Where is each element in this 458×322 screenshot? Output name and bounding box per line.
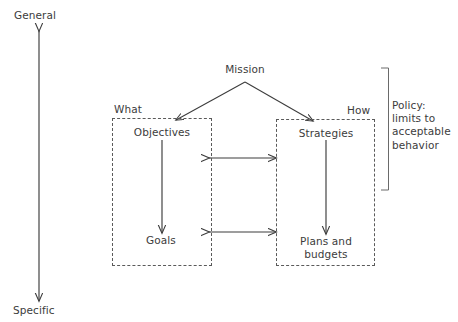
strategies-node-label: Strategies: [299, 127, 354, 140]
policy-bracket: [381, 68, 389, 190]
diagram-canvas: General Specific Mission What How Object…: [0, 0, 458, 322]
mission-label: Mission: [225, 63, 265, 76]
goals-node-label: Goals: [146, 234, 176, 247]
diagram-lines-layer: [0, 0, 458, 322]
axis-top-label: General: [14, 9, 56, 22]
axis-bottom-label: Specific: [13, 304, 55, 317]
mission-to-objectives-arrow: [176, 82, 245, 120]
objectives-node-label: Objectives: [134, 126, 190, 139]
how-caption: How: [347, 104, 370, 117]
what-caption: What: [114, 103, 142, 116]
mission-branch-lines: [176, 82, 313, 121]
plans-and-budgets-node-label: Plans and budgets: [300, 235, 352, 260]
mission-to-strategies-arrow: [245, 82, 313, 121]
policy-annotation-text: Policy: limits to acceptable behavior: [392, 99, 456, 152]
